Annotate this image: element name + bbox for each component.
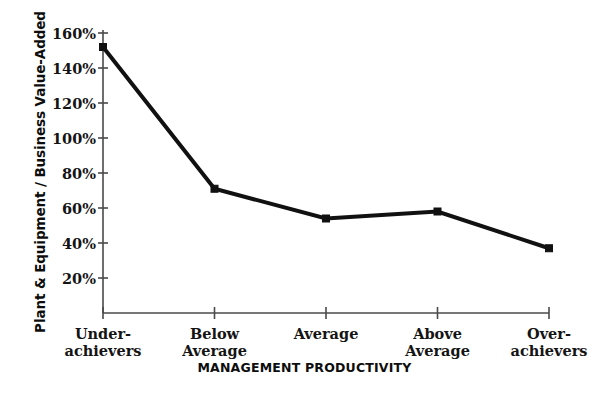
data-point-marker	[546, 245, 553, 252]
x-axis-tick-label: Over-achievers	[511, 325, 588, 359]
x-axis-tick-label: AboveAverage	[405, 325, 470, 359]
x-axis-tick-label-line2: achievers	[65, 342, 142, 359]
axes	[103, 30, 549, 313]
data-point-marker	[211, 185, 218, 192]
x-axis-tick-label-line1: Above	[405, 325, 470, 342]
data-point-marker	[100, 44, 107, 51]
chart-figure: Plant & Equipment / Business Value-Added…	[0, 0, 609, 403]
data-point-marker	[434, 208, 441, 215]
x-axis-tick-label-line1: Below	[182, 325, 247, 342]
data-point-marker	[323, 215, 330, 222]
x-axis-tick-label: Average	[294, 325, 359, 342]
x-axis-tick-label-line2: Average	[405, 342, 470, 359]
x-axis-tick-label: BelowAverage	[182, 325, 247, 359]
x-axis-title: MANAGEMENT PRODUCTIVITY	[0, 360, 609, 375]
data-point-markers	[100, 44, 553, 252]
x-axis-tick-label: Under-achievers	[65, 325, 142, 359]
x-axis-tick-label-line1: Over-	[511, 325, 588, 342]
x-axis-tick-label-line1: Average	[294, 325, 359, 342]
x-axis-tick-label-line2: Average	[182, 342, 247, 359]
x-axis-tick-label-line2: achievers	[511, 342, 588, 359]
x-axis-tick-label-line1: Under-	[65, 325, 142, 342]
